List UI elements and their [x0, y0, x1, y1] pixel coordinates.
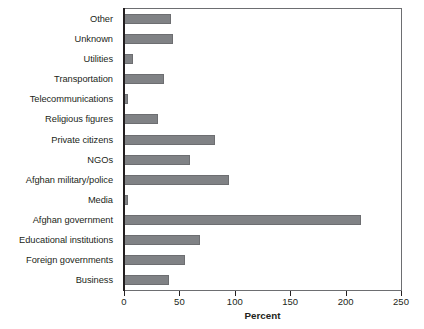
bar-row	[124, 150, 401, 170]
bar-business	[124, 275, 169, 285]
bar-row	[124, 250, 401, 270]
bar-afghan-government	[124, 215, 361, 225]
category-label: Unknown	[0, 29, 118, 49]
bar-transportation	[124, 74, 164, 84]
bar-row	[124, 230, 401, 250]
bar-row	[124, 170, 401, 190]
x-axis-tick-label: 250	[393, 296, 409, 308]
category-label: Telecommunications	[0, 89, 118, 109]
category-label: Private citizens	[0, 129, 118, 149]
bar-private-citizens	[124, 135, 215, 145]
category-label: Utilities	[0, 49, 118, 69]
bar-row	[124, 69, 401, 89]
bar-row	[124, 49, 401, 69]
bar-religious-figures	[124, 114, 158, 124]
x-axis-tick-label: 100	[227, 296, 243, 308]
category-label: NGOs	[0, 150, 118, 170]
bar-row	[124, 270, 401, 290]
x-axis-tick-labels: 050100150200250	[124, 296, 401, 309]
category-label: Religious figures	[0, 109, 118, 129]
category-label: Afghan government	[0, 210, 118, 230]
bar-unknown	[124, 34, 173, 44]
bar-ngos	[124, 155, 190, 165]
bar-other	[124, 14, 171, 24]
x-axis-tick-label: 0	[121, 296, 126, 308]
bar-afghan-military-police	[124, 175, 229, 185]
bar-row	[124, 109, 401, 129]
category-label: Business	[0, 270, 118, 290]
x-axis-tick-label: 200	[338, 296, 354, 308]
bar-row	[124, 190, 401, 210]
x-axis-title: Percent	[123, 310, 402, 321]
bar-educational-institutions	[124, 235, 200, 245]
category-label: Foreign governments	[0, 250, 118, 270]
x-axis-tick-label: 50	[174, 296, 185, 308]
category-axis-labels: Other Unknown Utilities Transportation T…	[0, 9, 118, 290]
value-axis-zero-line	[123, 8, 125, 291]
category-label: Media	[0, 190, 118, 210]
bar-row	[124, 210, 401, 230]
bar-row	[124, 29, 401, 49]
category-label: Educational institutions	[0, 230, 118, 250]
bar-row	[124, 129, 401, 149]
bar-foreign-governments	[124, 255, 185, 265]
category-label: Transportation	[0, 69, 118, 89]
category-label: Afghan military/police	[0, 170, 118, 190]
x-axis-tick-label: 150	[282, 296, 298, 308]
bar-row	[124, 9, 401, 29]
bar-chart: Other Unknown Utilities Transportation T…	[0, 0, 424, 329]
bars-container	[124, 9, 401, 290]
category-label: Other	[0, 9, 118, 29]
bar-row	[124, 89, 401, 109]
bar-utilities	[124, 54, 133, 64]
